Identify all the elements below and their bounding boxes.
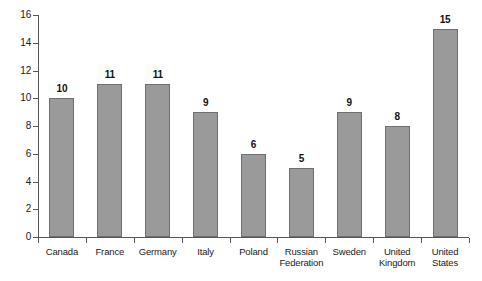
y-axis-tick-label: 12 bbox=[3, 66, 31, 76]
x-axis-category-label-line: United bbox=[373, 246, 421, 257]
bar-value-label: 10 bbox=[42, 84, 82, 94]
x-axis-tick bbox=[469, 238, 470, 243]
bar-value-label: 15 bbox=[425, 15, 465, 25]
y-axis-tick-label: 16 bbox=[3, 10, 31, 20]
bar bbox=[337, 112, 362, 237]
x-axis-category-label: Italy bbox=[182, 246, 230, 257]
bar bbox=[433, 29, 458, 237]
x-axis-category-label-line: Italy bbox=[182, 246, 230, 257]
y-axis-tick bbox=[33, 71, 38, 72]
x-axis-tick bbox=[325, 238, 326, 243]
bar-value-label: 5 bbox=[281, 154, 321, 164]
y-axis-tick bbox=[33, 126, 38, 127]
bar-value-label: 9 bbox=[329, 98, 369, 108]
x-axis-tick bbox=[373, 238, 374, 243]
x-axis-category-label-line: States bbox=[421, 257, 469, 268]
bar bbox=[97, 84, 122, 237]
x-axis-category-label-line: Germany bbox=[134, 246, 182, 257]
x-axis-tick bbox=[182, 238, 183, 243]
x-axis-category-label-line: Federation bbox=[277, 257, 325, 268]
x-axis-tick bbox=[86, 238, 87, 243]
x-axis-category-label-line: Kingdom bbox=[373, 257, 421, 268]
y-axis-tick-label: 14 bbox=[3, 38, 31, 48]
bar-value-label: 8 bbox=[377, 112, 417, 122]
y-axis-tick-label: 4 bbox=[3, 177, 31, 187]
y-axis-tick bbox=[33, 209, 38, 210]
y-axis-line bbox=[38, 15, 39, 238]
y-axis-tick bbox=[33, 154, 38, 155]
bar-value-label: 6 bbox=[234, 140, 274, 150]
y-axis-tick-label: 2 bbox=[3, 204, 31, 214]
x-axis-line bbox=[38, 237, 469, 238]
x-axis-category-label-line: Russian bbox=[277, 246, 325, 257]
x-axis-category-label: France bbox=[86, 246, 134, 257]
bar bbox=[241, 154, 266, 237]
x-axis-category-label: RussianFederation bbox=[277, 246, 325, 268]
y-axis-tick bbox=[33, 43, 38, 44]
x-axis-tick bbox=[38, 238, 39, 243]
bar bbox=[145, 84, 170, 237]
x-axis-category-label: Germany bbox=[134, 246, 182, 257]
x-axis-category-label: UnitedKingdom bbox=[373, 246, 421, 268]
y-axis-tick bbox=[33, 15, 38, 16]
bar-value-label: 11 bbox=[90, 70, 130, 80]
x-axis-tick bbox=[421, 238, 422, 243]
x-axis-category-label-line: United bbox=[421, 246, 469, 257]
x-axis-category-label-line: Sweden bbox=[325, 246, 373, 257]
y-axis-tick-label: 0 bbox=[3, 232, 31, 242]
y-axis-tick-label: 8 bbox=[3, 121, 31, 131]
x-axis-tick bbox=[230, 238, 231, 243]
x-axis-category-label-line: France bbox=[86, 246, 134, 257]
bar bbox=[193, 112, 218, 237]
y-axis-tick-label: 10 bbox=[3, 93, 31, 103]
bar-value-label: 9 bbox=[186, 98, 226, 108]
x-axis-category-label: Sweden bbox=[325, 246, 373, 257]
x-axis-category-label: Canada bbox=[38, 246, 86, 257]
bar-value-label: 11 bbox=[138, 70, 178, 80]
x-axis-tick bbox=[277, 238, 278, 243]
bar bbox=[289, 168, 314, 237]
y-axis-tick bbox=[33, 98, 38, 99]
bar bbox=[49, 98, 74, 237]
x-axis-tick bbox=[134, 238, 135, 243]
x-axis-category-label: UnitedStates bbox=[421, 246, 469, 268]
x-axis-category-label-line: Poland bbox=[230, 246, 278, 257]
x-axis-category-label: Poland bbox=[230, 246, 278, 257]
y-axis-tick bbox=[33, 182, 38, 183]
bar bbox=[385, 126, 410, 237]
y-axis-tick-label: 6 bbox=[3, 149, 31, 159]
x-axis-category-label-line: Canada bbox=[38, 246, 86, 257]
bar-chart: 0246810121416 1011119659815 CanadaFrance… bbox=[0, 0, 482, 281]
